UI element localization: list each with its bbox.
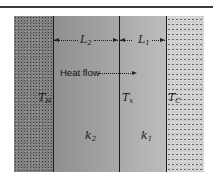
- k2-label: k2: [85, 130, 96, 143]
- L1-arrow-left-icon: [120, 38, 125, 42]
- L2-arrow-right-icon: [113, 38, 118, 42]
- L1-label: L1: [138, 34, 150, 47]
- L2-arrow-left-icon: [54, 38, 59, 42]
- L1-arrow-right-icon: [160, 38, 165, 42]
- T-hot-label: TH: [38, 92, 51, 105]
- T-cold-label: TC: [168, 92, 181, 105]
- L2-label: L2: [80, 34, 92, 47]
- heat-flow-arrow-line: [99, 73, 133, 74]
- composite-wall-diagram: L2 L1 Heat flow TH Tx TC k2 k1: [14, 16, 204, 172]
- cold-boundary-line: [166, 16, 168, 172]
- T-interface-label: Tx: [122, 92, 133, 105]
- heat-flow-label: Heat flow: [60, 68, 100, 78]
- heat-flow-arrow-icon: [132, 71, 137, 75]
- k1-label: k1: [141, 130, 152, 143]
- top-rule: [0, 6, 213, 8]
